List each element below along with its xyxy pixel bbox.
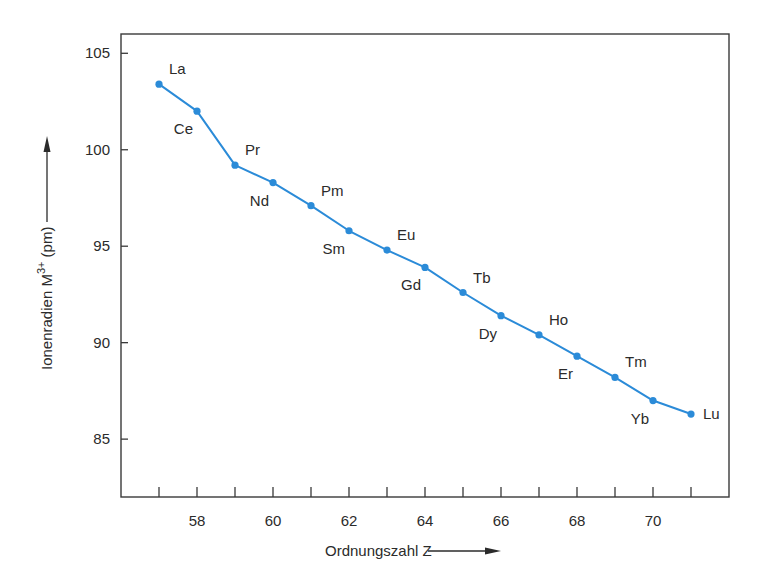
point-label-pr: Pr [245,141,260,158]
x-axis-arrow-icon [428,548,501,555]
point-label-gd: Gd [401,276,421,293]
point-label-yb: Yb [631,410,649,427]
point-label-er: Er [558,365,573,382]
y-tick-label: 100 [85,141,110,158]
y-axis-title-superscript: 3+ [35,262,47,275]
x-tick-label: 58 [189,512,206,529]
y-tick-label: 90 [93,334,110,351]
x-tick-label: 70 [645,512,662,529]
data-point-eu [383,246,390,253]
y-axis-title: Ionenradien M3+ (pm) [35,227,55,370]
point-label-ce: Ce [174,120,193,137]
data-point-pr [231,162,238,169]
y-tick-label: 85 [93,430,110,447]
data-point-er [573,353,580,360]
data-point-nd [269,179,276,186]
y-axis-title-suffix: (pm) [38,227,55,262]
y-axis-title-group: Ionenradien M3+ (pm) [35,227,55,370]
y-axis-arrow-icon [44,136,51,222]
data-point-gd [421,264,428,271]
y-tick-label: 95 [93,237,110,254]
data-point-pm [307,202,314,209]
data-point-sm [345,227,352,234]
x-axis-ticks: 58606264666870 [159,487,691,529]
data-point-lu [687,410,694,417]
point-label-eu: Eu [397,226,415,243]
point-label-lu: Lu [703,405,720,422]
data-point-yb [649,397,656,404]
series-line [159,84,691,414]
point-label-la: La [169,60,186,77]
point-label-ho: Ho [549,311,568,328]
y-tick-label: 105 [85,44,110,61]
chart: 58606264666870 859095100105 LaCePrNdPmSm… [0,0,761,588]
point-label-tb: Tb [473,269,491,286]
y-axis-title-prefix: Ionenradien M [38,274,55,370]
x-axis-title: Ordnungszahl Z [325,542,432,559]
data-point-ho [535,331,542,338]
x-tick-label: 68 [569,512,586,529]
series-layer [155,81,694,418]
data-point-dy [497,312,504,319]
x-tick-label: 66 [493,512,510,529]
x-tick-label: 60 [265,512,282,529]
x-tick-label: 62 [341,512,358,529]
point-label-dy: Dy [479,325,498,342]
data-point-ce [193,108,200,115]
data-point-la [155,81,162,88]
point-label-nd: Nd [250,192,269,209]
data-point-tb [459,289,466,296]
point-label-sm: Sm [323,240,346,257]
data-point-tm [611,374,618,381]
point-labels: LaCePrNdPmSmEuGdTbDyHoErTmYbLu [169,60,720,426]
point-label-pm: Pm [321,182,344,199]
x-tick-label: 64 [417,512,434,529]
point-label-tm: Tm [625,353,647,370]
